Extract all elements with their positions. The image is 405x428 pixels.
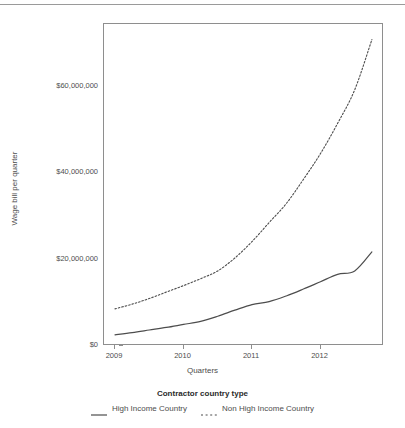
y-axis-tick-label: $40,000,000 [20, 168, 98, 176]
x-axis-tick-label: 2009 [94, 351, 134, 360]
y-axis-tick-label: $0 [20, 341, 98, 349]
plot-panel [103, 23, 383, 345]
x-axis-tick-mark [114, 345, 115, 349]
dashed-line-key [201, 405, 217, 413]
x-axis-tick-label: 2012 [300, 351, 340, 360]
legend-item-1[interactable]: High Income Country [91, 404, 187, 413]
chart-figure: Wage bill per quarter $0$20,000,000$40,0… [0, 0, 405, 428]
legend-item-2[interactable]: Non High Income Country [201, 404, 314, 413]
x-axis-tick-mark [183, 345, 184, 349]
series-line-1 [115, 252, 372, 335]
x-axis-tick-label: 2010 [163, 351, 203, 360]
x-axis-tick-mark [320, 345, 321, 349]
y-axis-tick-label: $20,000,000 [20, 255, 98, 263]
series-line-2 [115, 40, 372, 309]
legend-title: Contractor country type [0, 389, 405, 398]
solid-line-key [91, 405, 107, 413]
plot-lines [104, 24, 384, 346]
x-axis-title: Quarters [0, 366, 405, 375]
x-axis-tick-label: 2011 [231, 351, 271, 360]
y-axis-tick-labels: $0$20,000,000$40,000,000$60,000,000 [20, 0, 98, 428]
legend-item-label: Non High Income Country [222, 404, 314, 413]
chart-legend: Contractor country type High Income Coun… [0, 389, 405, 413]
legend-item-label: High Income Country [112, 404, 187, 413]
legend-items: High Income CountryNon High Income Count… [0, 404, 405, 413]
y-axis-tick-label: $60,000,000 [20, 82, 98, 90]
y-axis-title: Wage bill per quarter [10, 139, 19, 239]
x-axis-tick-mark [251, 345, 252, 349]
